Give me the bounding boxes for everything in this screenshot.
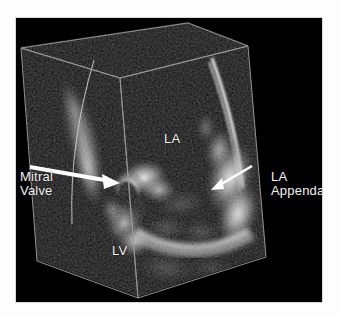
ultrasound-volume-render (16, 18, 322, 302)
echo-figure: Mitral Valve LA LA Appendage LV (0, 0, 338, 315)
ultrasound-scan-frame: Mitral Valve LA LA Appendage LV (16, 18, 322, 302)
